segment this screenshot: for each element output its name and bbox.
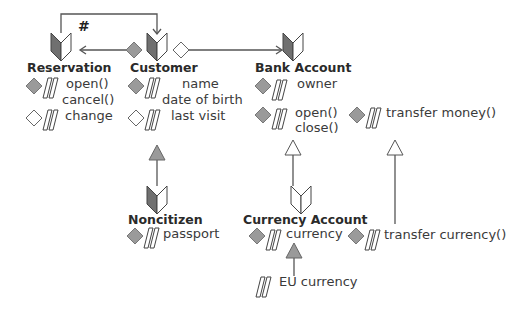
public-diamond-icon xyxy=(349,107,365,123)
member-name[interactable]: name xyxy=(182,76,219,92)
connector-label: # xyxy=(78,18,90,34)
public-diamond-icon xyxy=(255,107,271,123)
member-transfer-money[interactable]: transfer money() xyxy=(386,105,496,121)
member-currency[interactable]: currency xyxy=(286,226,343,242)
member-icon xyxy=(43,78,58,98)
member-open[interactable]: open() xyxy=(66,76,109,92)
member-icon xyxy=(144,228,159,248)
self-connector-line xyxy=(61,14,161,34)
bank-account-class-icon[interactable] xyxy=(283,33,303,61)
member-passport[interactable]: passport xyxy=(163,226,219,242)
class-title-customer[interactable]: Customer xyxy=(130,60,198,75)
member-icon xyxy=(272,80,287,100)
currency-account-class-icon[interactable] xyxy=(291,186,311,214)
member-change[interactable]: change xyxy=(65,108,113,124)
member-icon xyxy=(365,230,380,250)
diagram-canvas xyxy=(0,0,514,317)
member-transfer-currency[interactable]: transfer currency() xyxy=(384,227,506,243)
member-bank-open[interactable]: open() xyxy=(295,105,338,121)
customer-reservation-association xyxy=(80,42,142,58)
member-bank-close[interactable]: close() xyxy=(295,120,339,136)
member-cancel[interactable]: cancel() xyxy=(62,92,114,108)
member-eu-currency[interactable]: EU currency xyxy=(279,274,358,290)
public-diamond-icon xyxy=(255,78,271,94)
member-icon xyxy=(256,277,271,297)
transfer-currency-generalization xyxy=(387,140,403,224)
public-diamond-icon xyxy=(348,228,364,244)
class-title-bank-account[interactable]: Bank Account xyxy=(255,60,351,75)
public-diamond-icon xyxy=(249,228,265,244)
class-title-currency-account[interactable]: Currency Account xyxy=(243,212,368,227)
member-icon xyxy=(366,108,381,128)
member-date-of-birth[interactable]: date of birth xyxy=(162,92,243,108)
member-owner[interactable]: owner xyxy=(297,76,337,92)
eu-currency-generalization xyxy=(286,243,302,276)
class-title-reservation[interactable]: Reservation xyxy=(27,60,112,75)
member-icon xyxy=(145,78,160,98)
class-title-noncitizen[interactable]: Noncitizen xyxy=(128,212,203,227)
member-icon xyxy=(145,110,160,130)
public-diamond-icon xyxy=(128,78,144,94)
customer-class-icon[interactable] xyxy=(147,33,167,61)
noncitizen-class-icon[interactable] xyxy=(147,186,167,214)
public-diamond-icon xyxy=(127,228,143,244)
customer-bank-account-association xyxy=(173,42,282,58)
private-diamond-icon xyxy=(26,110,42,126)
member-last-visit[interactable]: last visit xyxy=(171,108,225,124)
reservation-class-icon[interactable] xyxy=(51,33,71,61)
currency-account-generalization xyxy=(285,140,301,186)
private-diamond-icon xyxy=(128,110,144,126)
public-diamond-icon xyxy=(26,78,42,94)
member-icon xyxy=(43,110,58,130)
member-icon xyxy=(272,109,287,129)
noncitizen-generalization xyxy=(149,145,165,186)
member-icon xyxy=(266,230,281,250)
